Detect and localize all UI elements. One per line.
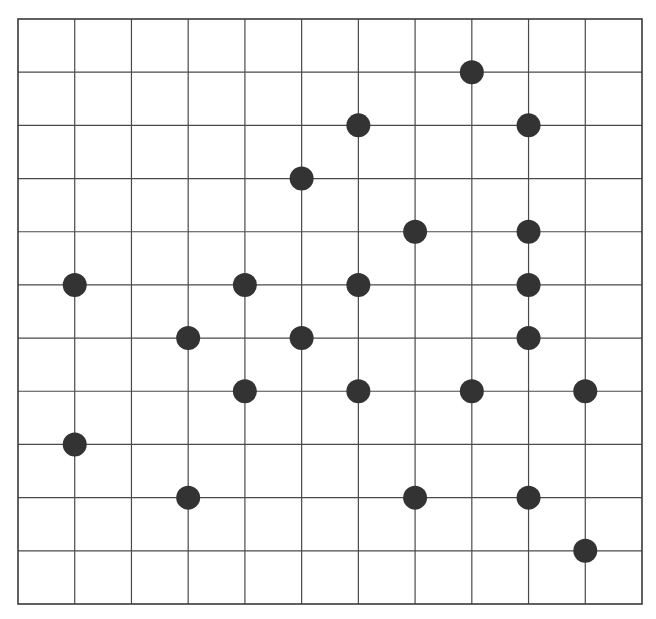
board-intersection[interactable]: [65, 115, 85, 135]
stone-piece[interactable]: [517, 113, 541, 137]
board-intersection[interactable]: [575, 169, 595, 189]
board-intersection[interactable]: [65, 169, 85, 189]
board-intersection[interactable]: [65, 381, 85, 401]
board-intersection[interactable]: [519, 381, 539, 401]
stone-piece[interactable]: [403, 220, 427, 244]
board-intersection[interactable]: [65, 488, 85, 508]
board-intersection[interactable]: [8, 541, 28, 561]
board-intersection[interactable]: [519, 541, 539, 561]
board-intersection[interactable]: [121, 541, 141, 561]
board-intersection[interactable]: [8, 9, 28, 29]
board-intersection[interactable]: [575, 488, 595, 508]
board-intersection[interactable]: [632, 328, 652, 348]
board-intersection[interactable]: [235, 62, 255, 82]
stone-piece[interactable]: [290, 167, 314, 191]
board-intersection[interactable]: [8, 381, 28, 401]
board-intersection[interactable]: [632, 488, 652, 508]
board-intersection[interactable]: [292, 115, 312, 135]
board-intersection[interactable]: [405, 115, 425, 135]
board-intersection[interactable]: [8, 62, 28, 82]
stone-piece[interactable]: [517, 326, 541, 350]
board-intersection[interactable]: [632, 594, 652, 614]
board-intersection[interactable]: [462, 434, 482, 454]
board-intersection[interactable]: [405, 541, 425, 561]
stone-piece[interactable]: [573, 539, 597, 563]
board-intersection[interactable]: [8, 328, 28, 348]
board-intersection[interactable]: [178, 381, 198, 401]
board-intersection[interactable]: [519, 62, 539, 82]
board-intersection[interactable]: [235, 115, 255, 135]
board-intersection[interactable]: [575, 62, 595, 82]
board-intersection[interactable]: [348, 9, 368, 29]
board-intersection[interactable]: [235, 328, 255, 348]
board-intersection[interactable]: [178, 62, 198, 82]
stone-piece[interactable]: [63, 432, 87, 456]
board-intersection[interactable]: [235, 488, 255, 508]
board-intersection[interactable]: [121, 434, 141, 454]
board-intersection[interactable]: [462, 594, 482, 614]
board-intersection[interactable]: [348, 541, 368, 561]
board-intersection[interactable]: [519, 169, 539, 189]
board-intersection[interactable]: [348, 488, 368, 508]
board-intersection[interactable]: [405, 434, 425, 454]
board-intersection[interactable]: [8, 115, 28, 135]
board-intersection[interactable]: [235, 594, 255, 614]
board-intersection[interactable]: [632, 222, 652, 242]
board-intersection[interactable]: [348, 222, 368, 242]
board-intersection[interactable]: [575, 222, 595, 242]
board-intersection[interactable]: [632, 541, 652, 561]
board-intersection[interactable]: [8, 594, 28, 614]
board-intersection[interactable]: [65, 328, 85, 348]
board-intersection[interactable]: [292, 381, 312, 401]
board-intersection[interactable]: [462, 115, 482, 135]
board-intersection[interactable]: [235, 541, 255, 561]
board-intersection[interactable]: [405, 62, 425, 82]
board-intersection[interactable]: [65, 62, 85, 82]
board-intersection[interactable]: [292, 9, 312, 29]
stone-piece[interactable]: [176, 326, 200, 350]
board-intersection[interactable]: [632, 275, 652, 295]
board-intersection[interactable]: [632, 381, 652, 401]
board-intersection[interactable]: [292, 434, 312, 454]
board-intersection[interactable]: [348, 594, 368, 614]
board-intersection[interactable]: [519, 594, 539, 614]
board-intersection[interactable]: [462, 488, 482, 508]
stone-piece[interactable]: [346, 379, 370, 403]
board-intersection[interactable]: [632, 62, 652, 82]
stone-piece[interactable]: [233, 379, 257, 403]
stone-piece[interactable]: [346, 273, 370, 297]
board-intersection[interactable]: [178, 594, 198, 614]
board-intersection[interactable]: [235, 434, 255, 454]
board-intersection[interactable]: [65, 541, 85, 561]
board-intersection[interactable]: [292, 488, 312, 508]
board-intersection[interactable]: [178, 115, 198, 135]
board-intersection[interactable]: [121, 275, 141, 295]
board-intersection[interactable]: [121, 9, 141, 29]
board-intersection[interactable]: [65, 594, 85, 614]
board-intersection[interactable]: [575, 328, 595, 348]
board-intersection[interactable]: [292, 222, 312, 242]
board-intersection[interactable]: [292, 62, 312, 82]
board-intersection[interactable]: [8, 275, 28, 295]
board-intersection[interactable]: [292, 275, 312, 295]
board-intersection[interactable]: [575, 594, 595, 614]
board-grid[interactable]: [0, 0, 656, 619]
stone-piece[interactable]: [290, 326, 314, 350]
board-intersection[interactable]: [575, 9, 595, 29]
board-intersection[interactable]: [292, 541, 312, 561]
stone-piece[interactable]: [176, 486, 200, 510]
board-intersection[interactable]: [235, 9, 255, 29]
board-intersection[interactable]: [235, 222, 255, 242]
board-intersection[interactable]: [348, 434, 368, 454]
board-intersection[interactable]: [8, 222, 28, 242]
board-intersection[interactable]: [462, 9, 482, 29]
board-intersection[interactable]: [405, 381, 425, 401]
board-intersection[interactable]: [575, 115, 595, 135]
board-intersection[interactable]: [121, 62, 141, 82]
board-intersection[interactable]: [121, 115, 141, 135]
board-intersection[interactable]: [462, 222, 482, 242]
board-intersection[interactable]: [462, 169, 482, 189]
board-intersection[interactable]: [121, 328, 141, 348]
board-intersection[interactable]: [632, 115, 652, 135]
stone-piece[interactable]: [403, 486, 427, 510]
